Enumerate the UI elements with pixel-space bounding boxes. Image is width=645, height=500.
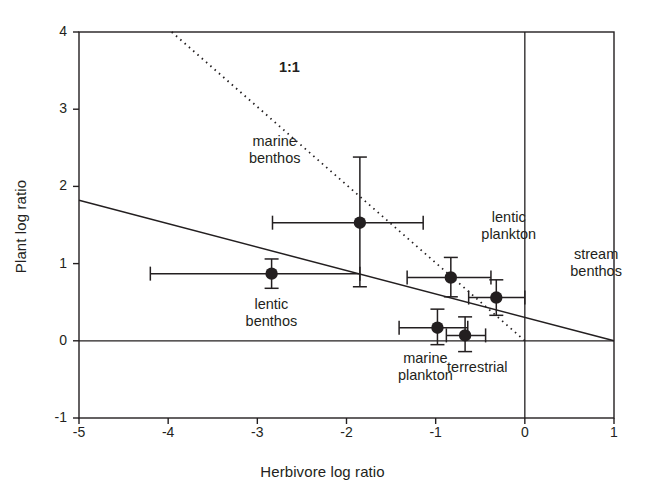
- point-label-marine-plankton: marineplankton: [398, 350, 453, 384]
- data-point-group-1: [272, 157, 423, 287]
- x-tick-label-0: -5: [59, 424, 99, 440]
- point-label-line: stream: [570, 246, 622, 263]
- point-label-terrestrial: terrestrial: [447, 359, 507, 376]
- data-point-group-5: [446, 317, 485, 352]
- point-label-line: lentic: [246, 296, 298, 313]
- point-label-lentic-benthos: lenticbenthos: [246, 296, 298, 330]
- x-tick-label-1: -4: [148, 424, 188, 440]
- point-label-line: plankton: [398, 367, 453, 384]
- point-label-marine-benthos: marinebenthos: [249, 133, 301, 167]
- data-point-group-4: [399, 309, 468, 345]
- x-tick-label-5: 0: [505, 424, 545, 440]
- data-point-marker: [490, 291, 502, 303]
- data-point-marker: [445, 271, 457, 283]
- x-tick-label-4: -1: [416, 424, 456, 440]
- point-label-line: marine: [398, 350, 453, 367]
- data-point-marker: [459, 329, 471, 341]
- data-point-marker: [354, 216, 366, 228]
- point-label-line: plankton: [481, 226, 536, 243]
- point-label-line: terrestrial: [447, 359, 507, 376]
- data-point-group-2: [407, 257, 491, 296]
- y-tick-label-5: 4: [41, 23, 67, 39]
- point-label-line: lentic: [481, 209, 536, 226]
- point-label-stream-benthos: streambenthos: [570, 246, 622, 280]
- one-to-one-label: 1:1: [279, 59, 300, 75]
- y-tick-label-2: 1: [41, 255, 67, 271]
- y-tick-label-1: 0: [41, 332, 67, 348]
- scatter-plot-figure: Herbivore log ratio Plant log ratio -5-4…: [0, 0, 645, 500]
- point-label-line: benthos: [246, 313, 298, 330]
- y-tick-label-4: 3: [41, 100, 67, 116]
- data-point-marker: [265, 267, 277, 279]
- point-label-line: benthos: [249, 150, 301, 167]
- y-tick-label-3: 2: [41, 177, 67, 193]
- point-label-line: benthos: [570, 263, 622, 280]
- point-label-line: marine: [249, 133, 301, 150]
- x-tick-label-3: -2: [327, 424, 367, 440]
- y-tick-label-0: -1: [41, 409, 67, 425]
- x-tick-label-2: -3: [237, 424, 277, 440]
- data-point-group-0: [150, 259, 360, 288]
- y-axis-title: Plant log ratio: [12, 137, 29, 317]
- data-point-marker: [431, 321, 443, 333]
- x-tick-label-6: 1: [594, 424, 634, 440]
- point-label-lentic-plankton: lenticplankton: [481, 209, 536, 243]
- one-to-one-line: [172, 32, 525, 341]
- x-axis-title: Herbivore log ratio: [0, 463, 645, 480]
- data-point-group-3: [469, 280, 525, 316]
